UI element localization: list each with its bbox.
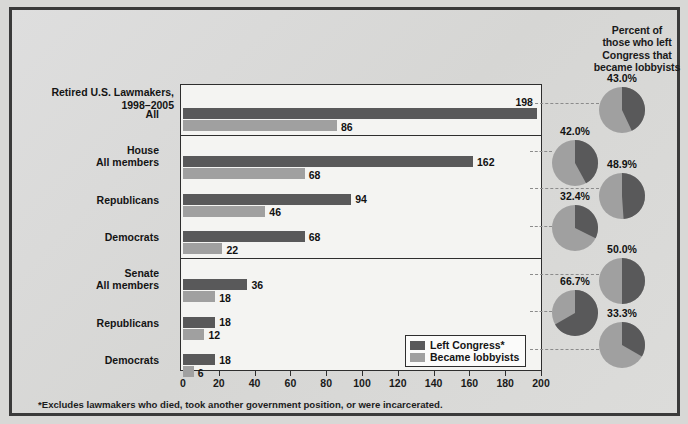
bar-left-congress <box>183 108 537 119</box>
legend-label-left-congress: Left Congress* <box>430 339 505 351</box>
bar-value-label: 68 <box>309 169 321 181</box>
section-divider <box>181 258 541 259</box>
x-axis-label: 200 <box>532 377 550 389</box>
x-axis-label: 180 <box>496 377 514 389</box>
x-axis-label: 20 <box>213 377 225 389</box>
plot-area: 0204060801001201401601802001988616268944… <box>180 84 542 371</box>
footnote: *Excludes lawmakers who died, took anoth… <box>38 399 443 410</box>
x-axis-tick <box>219 370 220 376</box>
row-label: Democrats <box>105 231 159 243</box>
x-axis-tick <box>398 370 399 376</box>
pie-leader-line <box>530 349 599 350</box>
pie-percent-label: 42.0% <box>545 125 605 137</box>
bar-left-congress <box>183 156 473 167</box>
bar-value-label: 18 <box>219 292 231 304</box>
bar-became-lobbyists <box>183 168 305 179</box>
x-axis-label: 120 <box>389 377 407 389</box>
x-axis-label: 40 <box>249 377 261 389</box>
bar-value-label: 36 <box>251 279 263 291</box>
x-axis-tick <box>505 370 506 376</box>
bar-left-congress <box>183 317 215 328</box>
legend: Left Congress* Became lobbyists <box>405 335 526 367</box>
bar-value-label: 18 <box>219 354 231 366</box>
bar-became-lobbyists <box>183 366 194 377</box>
bar-became-lobbyists <box>183 243 222 254</box>
legend-item-left-congress: Left Congress* <box>410 339 519 351</box>
x-axis-tick <box>434 370 435 376</box>
pie-chart <box>598 257 646 305</box>
pie-leader-line <box>530 151 552 152</box>
legend-label-became-lobbyists: Became lobbyists <box>430 351 519 363</box>
row-label: Democrats <box>105 354 159 366</box>
x-axis-tick <box>469 370 470 376</box>
section-divider <box>181 135 541 136</box>
x-axis-label: 0 <box>180 377 186 389</box>
bar-value-label: 162 <box>477 156 495 168</box>
x-axis-label: 160 <box>461 377 479 389</box>
x-axis-label: 140 <box>425 377 443 389</box>
pie-percent-label: 50.0% <box>592 243 652 255</box>
pies-header-line3: Congress that <box>578 49 688 61</box>
x-axis-tick <box>541 370 542 376</box>
pie-chart <box>598 321 646 369</box>
row-label: Republicans <box>97 317 159 329</box>
row-label: All members <box>96 279 159 291</box>
bar-value-label: 86 <box>341 121 353 133</box>
pie-percent-label: 48.9% <box>592 158 652 170</box>
row-label: All <box>146 108 159 120</box>
bar-left-congress <box>183 231 305 242</box>
pie-chart <box>598 172 646 220</box>
x-axis-label: 60 <box>285 377 297 389</box>
legend-swatch-dark <box>410 341 425 350</box>
pie-leader-line <box>530 226 552 227</box>
pies-header-line2: those who left <box>578 36 688 48</box>
pie-percent-label: 66.7% <box>545 275 605 287</box>
pie-chart <box>598 86 646 134</box>
pie-percent-label: 32.4% <box>545 190 605 202</box>
pies-header-line1: Percent of <box>578 24 688 36</box>
bar-became-lobbyists <box>183 291 215 302</box>
row-label: Republicans <box>97 194 159 206</box>
bar-value-label: 6 <box>198 367 204 379</box>
legend-item-became-lobbyists: Became lobbyists <box>410 351 519 363</box>
chart-figure: Percent of those who left Congress that … <box>0 0 688 424</box>
group-header-house: House <box>127 144 159 156</box>
bar-value-label: 18 <box>219 316 231 328</box>
row-label: All members <box>96 156 159 168</box>
x-axis-tick <box>290 370 291 376</box>
x-axis-label: 80 <box>320 377 332 389</box>
x-axis-tick <box>362 370 363 376</box>
bar-left-congress <box>183 279 247 290</box>
x-axis-tick <box>326 370 327 376</box>
x-axis-tick <box>255 370 256 376</box>
bar-left-congress <box>183 354 215 365</box>
bar-value-label: 22 <box>226 244 238 256</box>
axis-title-line1: Retired U.S. Lawmakers, <box>51 86 174 98</box>
pie-leader-line <box>530 311 552 312</box>
group-header-senate: Senate <box>125 267 159 279</box>
bar-value-label: 46 <box>269 206 281 218</box>
bar-left-congress <box>183 194 351 205</box>
pies-header: Percent of those who left Congress that … <box>578 24 688 74</box>
pie-percent-label: 43.0% <box>592 72 652 84</box>
bar-value-label: 12 <box>208 329 220 341</box>
legend-swatch-light <box>410 353 425 362</box>
bar-became-lobbyists <box>183 206 265 217</box>
pie-leader-line <box>530 103 599 104</box>
bar-value-label: 94 <box>355 193 367 205</box>
bar-value-label: 68 <box>309 231 321 243</box>
x-axis-label: 100 <box>353 377 371 389</box>
bar-became-lobbyists <box>183 329 204 340</box>
pie-percent-label: 33.3% <box>592 307 652 319</box>
bar-became-lobbyists <box>183 120 337 131</box>
